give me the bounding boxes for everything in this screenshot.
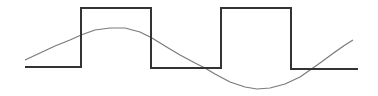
square-wave: [25, 8, 358, 69]
waveform-diagram: [0, 0, 378, 96]
waveform-svg: [0, 0, 378, 96]
sine-wave: [25, 28, 353, 89]
